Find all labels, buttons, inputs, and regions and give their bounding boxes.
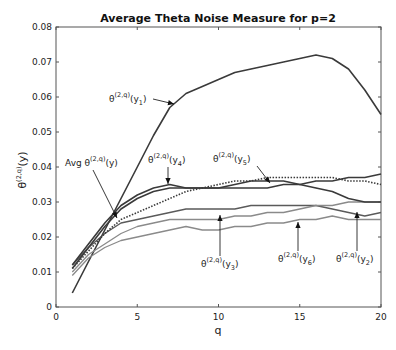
- annotation-y4-label: θ(2,q)(y4): [148, 152, 185, 168]
- y-tick-label: 0.01: [32, 267, 52, 277]
- x-tick-label: 0: [53, 312, 59, 322]
- line-chart: Average Theta Noise Measure for p=2 0510…: [0, 0, 396, 350]
- y-tick-label: 0.04: [32, 162, 52, 172]
- y-tick-label: 0.07: [32, 57, 52, 67]
- y-tick-label: 0.02: [32, 232, 52, 242]
- annotation-avg-label: Avg θ(2,q)(y): [65, 155, 118, 168]
- annotation-y6-label: θ(2,q)(y6): [278, 251, 315, 267]
- chart-title: Average Theta Noise Measure for p=2: [100, 12, 336, 25]
- chart-container: Average Theta Noise Measure for p=2 0510…: [0, 0, 396, 350]
- annotation-y3-label: θ(2,q)(y3): [201, 256, 238, 272]
- y-tick-label: 0.06: [32, 92, 52, 102]
- annotation-y2-label: θ(2,q)(y2): [336, 251, 373, 267]
- axes: 0510152000.010.020.030.040.050.060.070.0…: [32, 22, 387, 322]
- annotation-y1-label: θ(2,q)(y1): [109, 91, 146, 107]
- y-axis-label: θ(2,q)(y): [15, 151, 29, 188]
- annotation-y3-arrow-arrowhead-icon: [217, 215, 222, 221]
- annotation-avg-arrow-line: [93, 170, 117, 218]
- annotation-y6-arrow-arrowhead-icon: [295, 222, 300, 228]
- y-tick-label: 0.03: [32, 197, 52, 207]
- annotation-y4-arrow-arrowhead-icon: [165, 178, 170, 184]
- x-axis-label: q: [215, 324, 222, 337]
- x-tick-label: 20: [375, 312, 387, 322]
- x-tick-label: 10: [213, 312, 225, 322]
- series-line-6: [72, 178, 381, 269]
- y-tick-label: 0: [46, 302, 52, 312]
- y-tick-label: 0.08: [32, 22, 52, 32]
- y-tick-label: 0.05: [32, 127, 52, 137]
- series-line-3: [72, 174, 381, 265]
- x-tick-label: 5: [134, 312, 140, 322]
- x-tick-label: 15: [294, 312, 305, 322]
- annotation-y5-label: θ(2,q)(y5): [213, 151, 250, 167]
